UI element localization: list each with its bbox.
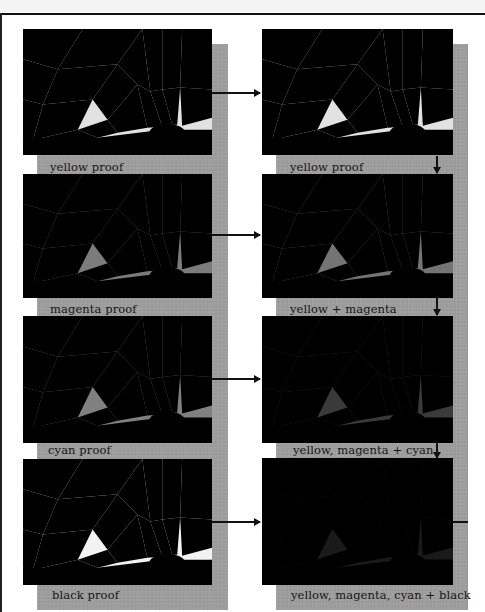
yellow-magenta-image: .ym .a{fill:#858585}.ym .b{fill:#727272}… — [262, 174, 453, 298]
arrow-down-1 — [436, 156, 438, 173]
left-rule — [0, 13, 2, 612]
arrow-down-3 — [436, 442, 438, 458]
arrow-right-row-1 — [212, 92, 260, 94]
arrow-right-row-4 — [212, 521, 260, 523]
right-label-2: yellow + magenta — [290, 302, 397, 316]
right-label-3: yellow, magenta + cyan — [293, 443, 434, 457]
left-label-2: magenta proof — [50, 302, 137, 316]
black-proof-image: .k .a{fill:#c9c9c9}.k .b{fill:#8a8a8a}.k… — [23, 459, 212, 585]
left-label-1: yellow proof — [50, 160, 123, 174]
right-label-1: yellow proof — [290, 160, 363, 174]
arrow-right-row-3 — [212, 378, 260, 380]
left-label-4: black proof — [52, 588, 119, 602]
output-line — [453, 521, 468, 523]
yellow-magenta-cyan-image: .ymc .a{fill:#555}.ymc .b{fill:#3e3e3e}.… — [262, 316, 453, 443]
progressive-yellow-image: .y2 .a{fill:#efefef}.y2 .b{fill:#e0e0e0}… — [262, 29, 453, 155]
page-top-margin — [0, 0, 485, 12]
right-label-4: yellow, magenta, cyan + black — [291, 588, 471, 602]
top-rule — [0, 13, 485, 15]
four-color-composite-image: .f4 .a{fill:#2e2e2e}.f4 .b{fill:#1c1c1c}… — [262, 458, 453, 585]
arrow-down-2 — [436, 298, 438, 315]
left-label-3: cyan proof — [48, 443, 111, 457]
arrow-right-row-2 — [212, 234, 260, 236]
yellow-proof-image: .y .a{fill:#efefef}.y .b{fill:#e0e0e0}.y… — [23, 29, 212, 155]
cyan-proof-image: .c3 .a{fill:#9a9a9a}.c3 .b{fill:#6f6f6f}… — [23, 316, 212, 443]
magenta-proof-image: .m .a{fill:#8e8e8e}.m .b{fill:#7a7a7a}.m… — [23, 174, 212, 298]
